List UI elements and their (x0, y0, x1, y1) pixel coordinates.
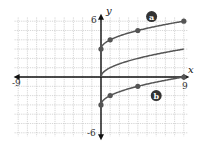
badge-label-a: a (149, 12, 154, 22)
point-b (135, 84, 140, 89)
curve-b (101, 77, 184, 105)
curve-a (101, 21, 184, 49)
chart: y x -9 9 6 -6 ab (0, 0, 200, 153)
y-axis-up-arrow-icon (98, 14, 104, 20)
y-axis-down-arrow-icon (98, 134, 104, 140)
badge-label-b: b (153, 91, 159, 101)
y-axis-label: y (105, 5, 112, 16)
point-b (181, 74, 186, 79)
point-a (98, 47, 103, 52)
data-points (98, 19, 186, 108)
point-b (98, 102, 103, 107)
coordinate-plane: y x -9 9 6 -6 ab (0, 0, 200, 153)
curves (101, 21, 184, 105)
point-b (108, 93, 113, 98)
point-a (135, 28, 140, 33)
point-a (108, 37, 113, 42)
y-max-tick-label: 6 (91, 15, 97, 25)
x-max-tick-label: 9 (182, 81, 188, 91)
y-min-tick-label: -6 (87, 128, 96, 138)
x-min-tick-label: -9 (12, 78, 21, 88)
curve-parent (101, 49, 184, 77)
point-a (181, 19, 186, 24)
x-axis-label: x (188, 64, 194, 75)
